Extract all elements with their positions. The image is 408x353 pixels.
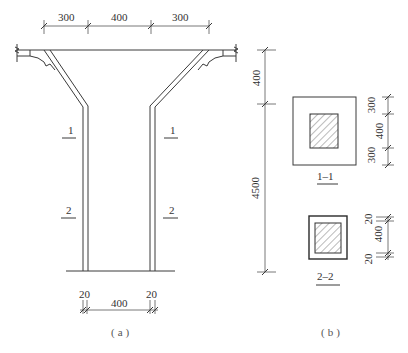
- top-dim-right: 300: [172, 11, 189, 23]
- section-2-dim-top: 20: [362, 214, 374, 225]
- bottom-dim-right: 20: [146, 288, 157, 300]
- vertical-dim-400: 400: [250, 70, 262, 87]
- section-1-dim-middle: 400: [373, 123, 385, 140]
- section-2-dim-middle: 400: [372, 226, 384, 243]
- bottom-dim-middle: 400: [111, 297, 128, 309]
- vertical-dim-4500: 4500: [249, 177, 261, 199]
- section-1-dim-top: 300: [365, 97, 377, 114]
- section-2-label: 2–2: [317, 270, 334, 282]
- section-1-label: 1–1: [317, 170, 334, 182]
- section-1-dim-bottom: 300: [365, 147, 377, 164]
- caption-b: (b): [321, 326, 343, 338]
- top-dim-middle: 400: [111, 11, 128, 23]
- top-dim-left: 300: [58, 11, 75, 23]
- section-2-dim-bottom: 20: [362, 254, 374, 265]
- caption-a: (a): [111, 326, 132, 338]
- bottom-dim-left: 20: [79, 288, 90, 300]
